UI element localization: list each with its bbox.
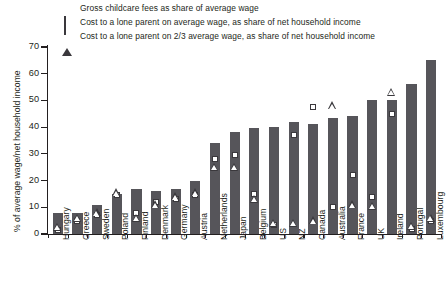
open-triangle-icon — [62, 31, 73, 42]
y-tick — [41, 233, 47, 234]
legend-label: Cost to a lone parent on average wage, a… — [80, 17, 361, 28]
x-tick-label: Germany — [179, 204, 189, 240]
y-tick-label: 70 — [18, 41, 39, 51]
bar — [151, 191, 161, 234]
open-triangle-marker — [269, 219, 277, 227]
open-square-marker — [389, 111, 395, 117]
open-triangle-marker — [328, 101, 336, 109]
x-tick-label: Portugal — [415, 208, 425, 240]
open-triangle-marker — [132, 214, 140, 222]
plot-area — [48, 47, 441, 234]
x-tick-label: Denmark — [160, 205, 170, 240]
x-tick-label: France — [356, 213, 366, 240]
y-tick-label: 0 — [18, 228, 39, 238]
legend-label: Cost to a lone parent on 2/3 average wag… — [80, 31, 375, 42]
x-tick-label: Belgium — [258, 209, 268, 240]
open-triangle-marker — [230, 163, 238, 171]
open-triangle-marker — [210, 163, 218, 171]
open-triangle-marker — [427, 214, 435, 222]
y-tick-label: 20 — [18, 175, 39, 185]
y-tick-label: 40 — [18, 121, 39, 131]
bar — [406, 84, 416, 234]
x-tick-label: Greece — [81, 212, 91, 240]
open-triangle-marker — [151, 200, 159, 208]
open-square-marker — [310, 104, 316, 110]
x-tick-label: Netherlands — [219, 193, 229, 240]
open-square-marker — [232, 152, 238, 158]
open-triangle-marker — [407, 222, 415, 230]
open-square-marker — [212, 156, 218, 162]
x-tick-label: Canada — [317, 210, 327, 240]
bar — [249, 128, 259, 234]
y-tick-label: 60 — [18, 68, 39, 78]
open-triangle-marker — [250, 195, 258, 203]
bar — [289, 122, 299, 234]
open-triangle-marker — [191, 188, 199, 196]
chart-container: Gross childcare fees as share of average… — [0, 0, 448, 302]
chart-legend: Gross childcare fees as share of average… — [62, 2, 442, 44]
bar — [328, 118, 338, 234]
y-tick-label: 50 — [18, 94, 39, 104]
x-tick-label: Sweden — [101, 209, 111, 240]
x-tick-label: Australia — [337, 206, 347, 240]
bar — [426, 60, 436, 234]
legend-item-lone-parent-two-thirds-wage: Cost to a lone parent on 2/3 average wag… — [62, 30, 442, 43]
open-triangle-marker — [171, 192, 179, 200]
x-tick-label: Austria — [199, 213, 209, 240]
x-tick-label: NZ — [297, 228, 307, 240]
x-tick-label: Poland — [120, 213, 130, 240]
bar — [387, 100, 397, 234]
y-tick — [41, 100, 47, 101]
open-triangle-marker — [348, 200, 356, 208]
y-tick — [41, 127, 47, 128]
open-triangle-marker — [112, 188, 120, 196]
y-tick-label: 10 — [18, 201, 39, 211]
bar — [112, 194, 122, 234]
y-tick-label: 30 — [18, 148, 39, 158]
x-tick-label: Ireland — [395, 213, 405, 240]
y-tick — [41, 153, 47, 154]
open-square-marker — [369, 194, 375, 200]
open-triangle-marker — [53, 223, 61, 231]
bar — [367, 100, 377, 234]
legend-label: Gross childcare fees as share of average… — [80, 3, 259, 14]
open-triangle-marker — [73, 214, 81, 222]
open-triangle-marker — [368, 202, 376, 210]
bar — [230, 132, 240, 234]
x-tick-label: Japan — [238, 216, 248, 240]
x-tick-label: Hungary — [61, 207, 71, 240]
x-tick-label: Finland — [140, 212, 150, 241]
x-tick-label: Luxembourg — [435, 192, 445, 240]
open-square-marker — [291, 132, 297, 138]
x-tick-label: UK — [376, 228, 386, 240]
legend-item-gross-fees: Gross childcare fees as share of average… — [62, 2, 442, 15]
open-square-marker — [350, 172, 356, 178]
y-tick — [41, 46, 47, 47]
open-square-icon — [62, 17, 73, 28]
open-triangle-marker — [289, 219, 297, 227]
open-triangle-marker — [309, 216, 317, 224]
legend-item-lone-parent-avg-wage: Cost to a lone parent on average wage, a… — [62, 16, 442, 29]
y-tick — [41, 180, 47, 181]
y-tick — [41, 73, 47, 74]
open-triangle-marker — [93, 208, 101, 216]
y-tick — [41, 207, 47, 208]
open-triangle-marker — [387, 88, 395, 96]
x-tick-label: US — [278, 228, 288, 240]
x-tick — [48, 234, 49, 238]
open-square-marker — [330, 204, 336, 210]
filled-square-icon — [62, 3, 73, 14]
bar — [269, 127, 279, 234]
